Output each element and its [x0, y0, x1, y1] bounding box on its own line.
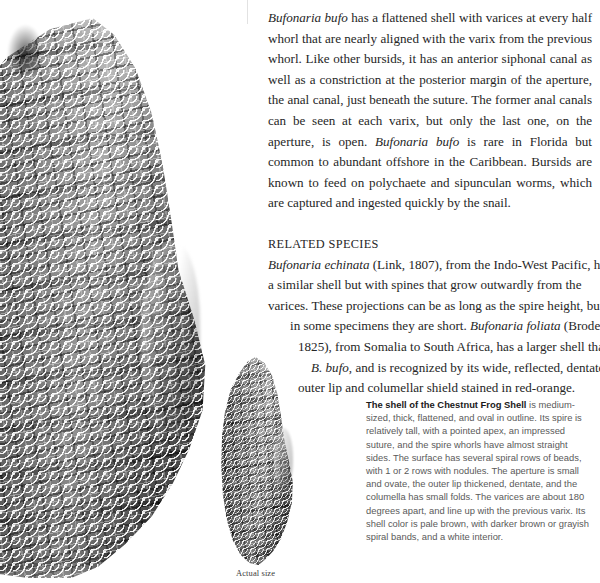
species-name-italic: Bufonaria bufo	[375, 134, 459, 149]
shell-caption-block: The shell of the Chestnut Frog Shell is …	[366, 398, 592, 543]
shell-apex-shadow	[7, 24, 45, 74]
species-name-italic: Bufonaria bufo	[268, 10, 348, 25]
text-line: B. bufo, and is recognized by its wide, …	[268, 358, 592, 379]
enlarged-shell-photograph	[0, 18, 216, 578]
gutter-rule	[247, 0, 248, 24]
caption-lead: The shell of the Chestnut Frog Shell	[366, 399, 526, 410]
species-name-italic: B. bufo	[311, 360, 349, 375]
text-line: a similar shell but with spines that gro…	[268, 275, 592, 296]
paragraph-description: Bufonaria bufo has a flattened shell wit…	[268, 8, 592, 214]
actual-size-label: Actual size	[236, 568, 275, 578]
caption-text: is medium-sized, thick, flattened, and o…	[366, 399, 589, 542]
caption-paragraph: The shell of the Chestnut Frog Shell is …	[366, 398, 592, 543]
text-line: 1825), from Somalia to South Africa, has…	[268, 337, 592, 358]
shell-varix-highlight	[141, 242, 200, 432]
body-text-column: Bufonaria bufo has a flattened shell wit…	[268, 4, 592, 399]
text-line: outer lip and columellar shield stained …	[268, 378, 592, 399]
text-line: Bufonaria echinata (Link, 1807), from th…	[268, 255, 592, 276]
section-heading-related-species: RELATED SPECIES	[268, 214, 592, 255]
text-line: in some specimens they are short. Bufona…	[268, 316, 592, 337]
text-line: varices. These projections can be as lon…	[268, 296, 592, 317]
species-name-italic: Bufonaria foliata	[470, 318, 561, 333]
book-page: Actual size Bufonaria bufo has a flatten…	[0, 0, 600, 583]
paragraph-related-species: Bufonaria echinata (Link, 1807), from th…	[268, 255, 592, 399]
species-name-italic: Bufonaria echinata	[268, 257, 369, 272]
